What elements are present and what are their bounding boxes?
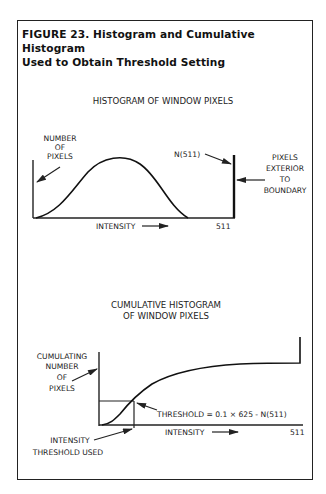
histogram-y-arrow-icon: [37, 167, 60, 182]
cumulative-title-line1: CUMULATIVE HISTOGRAM: [111, 300, 221, 310]
histogram-curve: [36, 158, 188, 218]
svg-text:NUMBER: NUMBER: [45, 362, 79, 371]
svg-text:THRESHOLD USED: THRESHOLD USED: [32, 448, 104, 457]
cumulative-x-max: 511: [290, 428, 305, 437]
histogram-title: HISTOGRAM OF WINDOW PIXELS: [93, 96, 234, 106]
svg-text:INTENSITY: INTENSITY: [50, 436, 90, 445]
threshold-formula: THRESHOLD = 0.1 × 625 - N(511): [156, 410, 287, 419]
svg-text:CUMULATING: CUMULATING: [37, 352, 88, 361]
svg-text:OF: OF: [57, 373, 67, 382]
svg-text:EXTERIOR: EXTERIOR: [266, 164, 305, 173]
svg-text:PIXELS: PIXELS: [49, 384, 75, 393]
threshold-arrow-icon: [137, 403, 157, 410]
cumulative-x-label: INTENSITY: [165, 428, 205, 437]
svg-text:OF: OF: [55, 143, 65, 152]
histogram-x-label: INTENSITY: [96, 222, 136, 231]
histogram-n511-label: N(511): [174, 150, 200, 159]
svg-text:BOUNDARY: BOUNDARY: [264, 186, 307, 195]
diagram-canvas: HISTOGRAM OF WINDOW PIXELS NUMBER OF PIX…: [0, 0, 326, 494]
histogram-y-label: NUMBER OF PIXELS: [43, 134, 77, 161]
histogram-n511-arrow-icon: [205, 154, 231, 164]
threshold-used-arrow-icon: [94, 429, 132, 440]
threshold-used-label: INTENSITY THRESHOLD USED: [32, 436, 104, 457]
histogram-exterior-label: PIXELS EXTERIOR TO BOUNDARY: [264, 153, 307, 195]
svg-text:TO: TO: [279, 175, 291, 184]
cumulative-y-label: CUMULATING NUMBER OF PIXELS: [37, 352, 88, 393]
svg-text:PIXELS: PIXELS: [272, 153, 298, 162]
cumulative-title-line2: OF WINDOW PIXELS: [123, 311, 209, 321]
histogram-x-max: 511: [216, 222, 231, 231]
svg-text:NUMBER: NUMBER: [43, 134, 77, 143]
svg-text:PIXELS: PIXELS: [47, 152, 73, 161]
